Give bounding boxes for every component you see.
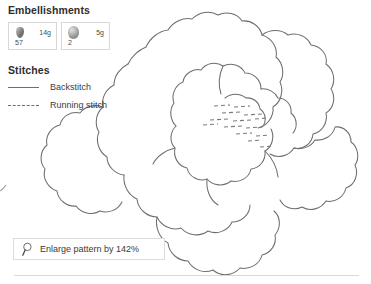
embellishment-swatch-list: 14g 57 5g 2: [8, 22, 130, 50]
stitch-mark: [233, 120, 251, 121]
stitch-mark: [236, 133, 252, 134]
dashed-line-icon: [8, 100, 42, 111]
legend-item-running-stitch: Running stitch: [8, 100, 130, 111]
enlarge-pattern-label: Enlarge pattern by 142%: [40, 243, 139, 255]
magnifier-icon: [21, 242, 34, 256]
stitch-mark: [214, 105, 230, 106]
embellishment-code: 2: [68, 39, 72, 47]
petal-outline-inner-bottom: [171, 126, 273, 185]
page-edge-mark: [0, 184, 9, 193]
petal-outline-innermost: [225, 94, 265, 127]
petal-seam-left: [153, 148, 175, 164]
petal-outline-left-small: [41, 106, 122, 214]
petal-outline-right: [262, 31, 334, 157]
legend-label: Backstitch: [50, 82, 91, 93]
enlarge-pattern-button[interactable]: Enlarge pattern by 142%: [13, 238, 165, 260]
petal-seam-center: [207, 179, 218, 205]
stitch-mark: [224, 126, 242, 127]
petal-outline-bottom-left: [124, 175, 250, 235]
pattern-info-column: Embellishments 14g 57 5g 2 Stitches Back…: [8, 4, 130, 118]
stitch-mark: [255, 118, 268, 119]
petal-outline-right-lower: [280, 127, 358, 210]
stitch-mark: [248, 140, 262, 141]
petal-outline-outer-top: [128, 12, 283, 128]
embellishment-weight: 14g: [39, 29, 51, 37]
embellishments-heading: Embellishments: [8, 4, 130, 17]
stitch-mark: [222, 112, 240, 113]
bead-icon: [68, 26, 79, 39]
embellishment-weight: 5g: [96, 29, 104, 37]
pattern-page: Embellishments 14g 57 5g 2 Stitches Back…: [0, 0, 371, 284]
stitch-mark: [234, 106, 250, 107]
stitch-legend: Backstitch Running stitch: [8, 82, 130, 111]
petal-curl-center: [219, 66, 223, 94]
bead-icon: [16, 27, 24, 38]
stitch-mark: [210, 119, 228, 120]
embellishment-swatch-card[interactable]: 5g 2: [61, 22, 110, 50]
petal-outline-inner-left: [171, 63, 261, 126]
stitches-heading: Stitches: [8, 64, 130, 77]
stitch-mark: [246, 127, 262, 128]
embellishment-code: 57: [15, 39, 23, 47]
petal-seam-right: [265, 151, 278, 177]
stitch-mark: [244, 114, 262, 115]
legend-item-backstitch: Backstitch: [8, 82, 130, 93]
petal-outline-inner-top: [261, 89, 296, 133]
stitch-mark: [260, 146, 274, 147]
petal-outline-bottom-center: [156, 211, 279, 275]
legend-label: Running stitch: [50, 100, 107, 111]
stitch-mark: [256, 135, 270, 136]
solid-line-icon: [8, 82, 42, 93]
stitch-mark: [203, 124, 218, 125]
running-stitch-marks: [203, 105, 274, 147]
footer-divider: [14, 275, 359, 276]
embellishment-swatch-card[interactable]: 14g 57: [8, 22, 57, 50]
